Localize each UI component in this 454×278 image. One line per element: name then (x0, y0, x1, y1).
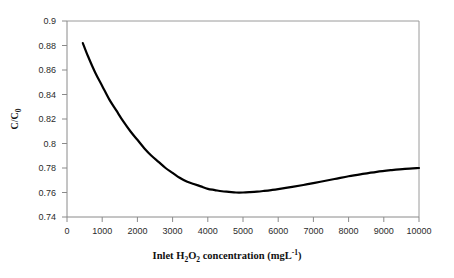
y-axis-title: C/C0 (9, 109, 20, 130)
x-tick-label: 4000 (198, 226, 218, 236)
x-axis-title-close: ) (298, 250, 302, 261)
x-axis-title: Inlet H2O2 concentration (mgL-1) (0, 250, 454, 261)
y-axis-title-sub: 0 (14, 109, 23, 113)
plot-frame (67, 21, 419, 217)
x-tick-label: 0 (64, 226, 69, 236)
data-series-line (83, 43, 419, 193)
y-tick-label: 0.74 (16, 212, 56, 222)
y-tick-label: 0.8 (16, 139, 56, 149)
y-tick-label: 0.9 (16, 16, 56, 26)
x-tick-label: 7000 (303, 226, 323, 236)
y-tick-label: 0.82 (16, 114, 56, 124)
y-tick-label: 0.78 (16, 163, 56, 173)
y-axis-ticks (62, 21, 67, 217)
x-axis-title-suffix: concentration (mgL (200, 250, 292, 261)
plot-canvas (0, 0, 454, 278)
x-tick-label: 6000 (268, 226, 288, 236)
x-tick-label: 8000 (339, 226, 359, 236)
y-tick-label: 0.76 (16, 188, 56, 198)
y-tick-label: 0.88 (16, 41, 56, 51)
chart-figure: 0.9 0.88 0.86 0.84 0.82 0.8 0.78 0.76 0.… (0, 0, 454, 278)
y-tick-label: 0.84 (16, 90, 56, 100)
x-tick-label: 5000 (233, 226, 253, 236)
x-tick-label: 3000 (163, 226, 183, 236)
x-tick-label: 9000 (374, 226, 394, 236)
y-axis-title-main: C/C (9, 112, 20, 129)
x-tick-label: 2000 (127, 226, 147, 236)
x-axis-ticks (67, 217, 419, 222)
y-tick-label: 0.86 (16, 65, 56, 75)
x-tick-label: 10000 (406, 226, 431, 236)
x-axis-title-prefix: Inlet H (153, 250, 185, 261)
x-tick-label: 1000 (92, 226, 112, 236)
